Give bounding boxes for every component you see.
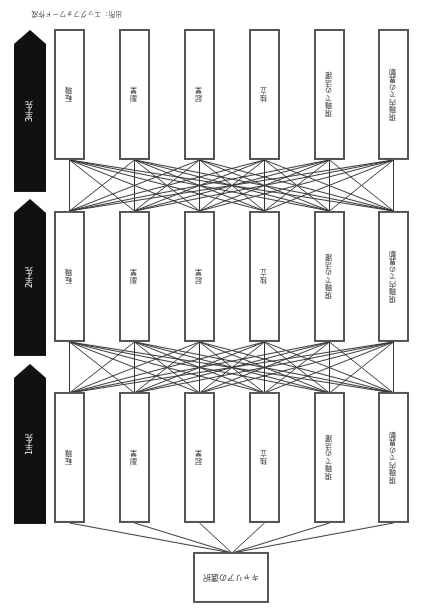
l3-option-success-current: 現職での活躍: [314, 29, 345, 160]
option-label: 現職での活躍: [325, 435, 335, 480]
option-label: 起業: [195, 87, 205, 102]
l3-option-independence: 独立: [249, 29, 280, 160]
level-2-arrow: 2手先: [14, 199, 46, 356]
option-label: 現職内での異動: [389, 431, 399, 484]
option-label: 現職での活躍: [325, 72, 335, 117]
l2-option-independence: 独立: [249, 211, 280, 342]
level-1-arrow: 1手先: [14, 364, 46, 524]
option-label: 現職での活躍: [325, 254, 335, 299]
option-label: 起業: [195, 269, 205, 284]
l1-option-success-current: 現職での活躍: [314, 392, 345, 523]
career-choice-diagram: キャリアの選択 現職内での異動 現職での活躍 独立 起業 副業 転職 現職内での…: [0, 0, 422, 614]
l3-option-startup: 起業: [184, 29, 215, 160]
option-label: 副業: [130, 87, 140, 102]
level-label: 1手先: [25, 433, 36, 454]
l1-option-independence: 独立: [249, 392, 280, 523]
option-label: 転職: [65, 87, 75, 102]
l1-option-job-change: 転職: [54, 392, 85, 523]
option-label: 起業: [195, 450, 205, 465]
l1-option-startup: 起業: [184, 392, 215, 523]
l1-option-in-company-transfer: 現職内での異動: [378, 392, 409, 523]
l2-option-startup: 起業: [184, 211, 215, 342]
option-label: 独立: [260, 87, 270, 102]
source-caption: 出所：エッグフォワード作成: [31, 10, 122, 20]
level-label: 2手先: [25, 267, 36, 288]
l3-option-in-company-transfer: 現職内での異動: [378, 29, 409, 160]
start-label: キャリアの選択: [203, 572, 259, 583]
l2-option-job-change: 転職: [54, 211, 85, 342]
option-label: 転職: [65, 450, 75, 465]
l2-option-in-company-transfer: 現職内での異動: [378, 211, 409, 342]
option-label: 現職内での異動: [389, 68, 399, 121]
start-box: キャリアの選択: [193, 552, 269, 603]
l2-option-side-job: 副業: [119, 211, 150, 342]
option-label: 副業: [130, 269, 140, 284]
option-label: 独立: [260, 269, 270, 284]
l1-option-side-job: 副業: [119, 392, 150, 523]
option-label: 転職: [65, 269, 75, 284]
l3-option-job-change: 転職: [54, 29, 85, 160]
option-label: 現職内での異動: [389, 250, 399, 303]
l2-option-success-current: 現職での活躍: [314, 211, 345, 342]
l3-option-side-job: 副業: [119, 29, 150, 160]
option-label: 副業: [130, 450, 140, 465]
level-label: 3手先: [25, 100, 36, 121]
level-3-arrow: 3手先: [14, 30, 46, 192]
option-label: 独立: [260, 450, 270, 465]
